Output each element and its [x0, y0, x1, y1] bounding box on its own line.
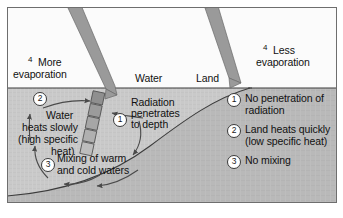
land-note-3-line1: No mixing — [245, 155, 291, 166]
water-note-1-badge: 1 — [113, 113, 127, 127]
land-note-1-line1: No penetration of — [245, 93, 324, 104]
evaporation-left-line1: More — [38, 57, 62, 68]
water-note-2-line2: heats slowly — [22, 122, 78, 133]
land-note-2-badge: 2 — [227, 124, 241, 138]
water-note-3-badge: 3 — [41, 158, 55, 172]
land-region-label: Land — [196, 73, 219, 84]
land-note-2-line2: (low specific heat) — [245, 136, 327, 147]
land-note-3-badge: 3 — [227, 155, 241, 169]
evaporation-left-marker: 4 — [28, 55, 32, 64]
water-note-2-line1: Water — [46, 110, 73, 121]
water-note-3-line1: Mixing of warm — [57, 153, 126, 164]
water-note-3-line2: and cold waters — [57, 165, 129, 176]
evaporation-left-line2: evaporation — [13, 69, 67, 80]
evaporation-right-line1: Less — [273, 45, 295, 56]
diagram-land-water-heating: 4 More evaporation 4 Less evaporation Wa… — [0, 0, 343, 218]
water-region-label: Water — [135, 73, 162, 84]
land-note-1-badge: 1 — [227, 93, 241, 107]
water-note-2-line3: (high specific — [18, 134, 78, 145]
evaporation-right-line2: evaporation — [256, 57, 310, 68]
land-note-1-line2: radiation — [245, 105, 284, 116]
water-note-1-line3: to depth — [131, 119, 168, 130]
evaporation-right-marker: 4 — [263, 43, 267, 52]
land-note-2-line1: Land heats quickly — [245, 124, 330, 135]
water-note-2-badge: 2 — [33, 92, 47, 106]
